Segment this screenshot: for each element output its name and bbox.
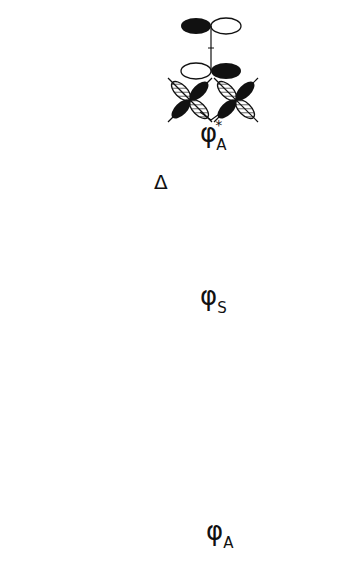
label-psi-s: φS — [200, 283, 227, 309]
label-psi-a-star: φ*A — [200, 120, 226, 146]
level-psi-a-star — [168, 18, 258, 122]
mo-diagram — [0, 0, 363, 567]
p-lobe-open — [211, 18, 241, 34]
p-lobe-filled — [181, 18, 211, 34]
figure-caption-cropped — [2, 556, 362, 567]
label-psi-a: φA — [206, 518, 233, 544]
label-gap-delta: Δ — [154, 172, 168, 192]
